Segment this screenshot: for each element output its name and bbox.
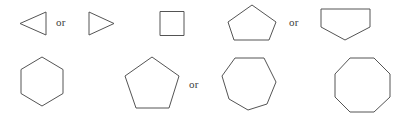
triangle-right-shape [89, 12, 114, 35]
or-label-triangles: or [56, 17, 66, 28]
pentagon-up-shape [228, 5, 276, 40]
octagon-shape [335, 58, 390, 112]
triangle-left-shape [20, 12, 46, 35]
hexagon-shape [21, 57, 63, 106]
heptagon-apex-top-shape [125, 57, 179, 108]
heptagon-flat-top-shape [222, 58, 276, 110]
pentagon-down-shape [321, 9, 370, 40]
or-label-pentagons: or [289, 17, 299, 28]
or-label-heptagons: or [189, 79, 199, 90]
square-shape [160, 12, 184, 36]
polygon-reference-figure: or or or [0, 0, 415, 119]
